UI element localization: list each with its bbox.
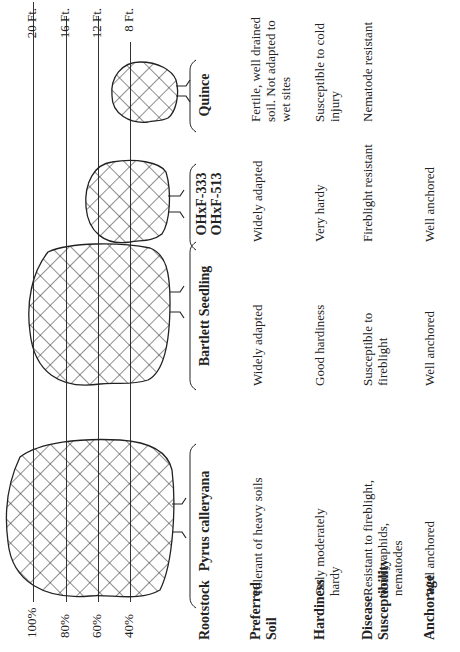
quince-disease: Nematode resistant — [360, 2, 375, 122]
rootstock-name-ohxf: OHxF-333 OHxF-513 — [194, 166, 224, 242]
bartlett-hardiness: Good hardiness — [312, 256, 327, 386]
bartlett-soil: Widely adapted — [250, 256, 265, 386]
pyrus-disease: Resistant to fireblight, wooly aphids, n… — [360, 466, 405, 596]
rootstock-name-pyrus: Pyrus calleryana — [197, 446, 213, 596]
tree-pyrus-calleryana — [7, 440, 187, 597]
ohxf-line1: OHxF-333 — [194, 166, 209, 242]
ohxf-disease: Fireblight resistant — [360, 122, 375, 242]
quince-soil: Fertile, well drained soil. Not adapted … — [248, 2, 293, 122]
rootstock-name-bartlett: Bartlett Seedling — [197, 246, 213, 386]
ohxf-anchorage: Well anchored — [422, 132, 437, 242]
rootstock-name-quince: Quince — [197, 62, 213, 128]
ohxf-hardiness: Very hardy — [312, 132, 327, 242]
bartlett-anchorage: Well anchored — [422, 256, 437, 386]
pyrus-soil: Tolerant of heavy soils — [250, 476, 265, 596]
ohxf-line2: OHxF-513 — [209, 166, 224, 242]
pyrus-hardiness: Only moderately hardy — [312, 486, 342, 596]
quince-hardiness: Susceptible to cold injury — [312, 12, 342, 122]
tree-bartlett-seedling — [29, 244, 184, 385]
bartlett-disease: Susceptible to fireblight — [360, 286, 390, 386]
tree-quince — [112, 62, 190, 122]
tree-ohxf — [86, 160, 184, 242]
rootstock-diagram: 100% 80% 60% 40% 20 Ft. 16 Ft. 12 Ft. 8 … — [0, 0, 460, 652]
pyrus-anchorage: Well anchored — [422, 466, 437, 596]
ohxf-soil: Widely adapted — [250, 132, 265, 242]
